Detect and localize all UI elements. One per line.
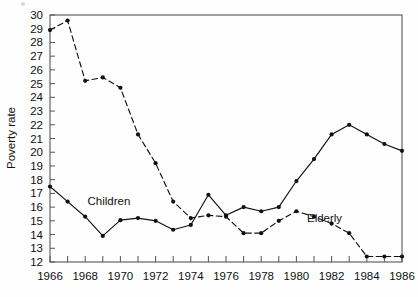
data-point — [224, 215, 228, 219]
y-tick-label: 15 — [30, 215, 43, 227]
x-tick-label: 1980 — [284, 270, 310, 282]
data-point — [259, 231, 263, 235]
y-tick-label: 14 — [30, 229, 43, 241]
data-point — [66, 18, 70, 22]
data-point — [259, 209, 263, 213]
x-tick-label: 1970 — [108, 270, 134, 282]
data-point — [171, 200, 175, 204]
x-tick-label: 1966 — [37, 270, 63, 282]
x-tick-label: 1982 — [319, 270, 345, 282]
data-point — [118, 218, 122, 222]
x-tick-label: 1972 — [143, 270, 169, 282]
data-point — [382, 142, 386, 146]
data-point — [206, 193, 210, 197]
series-elderly — [48, 18, 404, 258]
data-point — [154, 219, 158, 223]
y-tick-label: 28 — [30, 36, 43, 48]
y-tick-label: 27 — [30, 50, 43, 62]
data-point — [242, 205, 246, 209]
y-tick-label: 16 — [30, 201, 43, 213]
y-tick-label: 25 — [30, 78, 43, 90]
data-point — [101, 234, 105, 238]
data-point — [101, 75, 105, 79]
data-point — [277, 205, 281, 209]
data-point — [48, 184, 52, 188]
y-axis: 12131415161718192021222324252627282930 — [30, 9, 55, 268]
data-point — [347, 231, 351, 235]
data-point — [312, 157, 316, 161]
x-tick-label: 1976 — [213, 270, 239, 282]
data-point — [206, 213, 210, 217]
data-point — [365, 254, 369, 258]
y-tick-label: 30 — [30, 9, 43, 21]
data-point — [189, 223, 193, 227]
y-tick-label: 18 — [30, 174, 43, 186]
data-point — [400, 254, 404, 258]
series-line-children — [50, 125, 402, 236]
series-label-children: Children — [88, 195, 131, 207]
data-point — [347, 123, 351, 127]
data-point — [365, 132, 369, 136]
x-tick-label: 1984 — [354, 270, 380, 282]
y-tick-label: 21 — [30, 133, 43, 145]
series-label-elderly: Elderly — [307, 212, 342, 224]
x-tick-label: 1968 — [72, 270, 98, 282]
data-point — [382, 254, 386, 258]
data-point — [400, 149, 404, 153]
y-tick-label: 13 — [30, 242, 43, 254]
data-point — [83, 215, 87, 219]
poverty-rate-line-chart: 12131415161718192021222324252627282930 1… — [0, 0, 418, 297]
x-axis: 1966196819701972197419761978198019821984… — [37, 256, 415, 282]
data-point — [48, 28, 52, 32]
y-tick-label: 26 — [30, 64, 43, 76]
data-point — [294, 209, 298, 213]
y-tick-label: 24 — [30, 91, 43, 103]
data-point — [66, 200, 70, 204]
y-tick-label: 22 — [30, 119, 43, 131]
data-point — [242, 231, 246, 235]
data-point — [294, 179, 298, 183]
data-point — [118, 86, 122, 90]
data-point — [154, 161, 158, 165]
data-series-group — [48, 18, 404, 258]
x-tick-label: 1978 — [248, 270, 274, 282]
x-tick-label: 1986 — [389, 270, 415, 282]
data-point — [189, 216, 193, 220]
data-point — [171, 228, 175, 232]
y-tick-label: 17 — [30, 187, 43, 199]
y-tick-label: 23 — [30, 105, 43, 117]
data-point — [136, 132, 140, 136]
series-children — [48, 123, 404, 238]
data-point — [136, 216, 140, 220]
y-tick-label: 20 — [30, 146, 43, 158]
data-point — [277, 219, 281, 223]
plot-area-frame — [50, 15, 402, 262]
data-point — [330, 132, 334, 136]
series-line-elderly — [50, 20, 402, 256]
data-point — [83, 79, 87, 83]
y-tick-label: 29 — [30, 23, 43, 35]
y-axis-title: Poverty rate — [5, 107, 17, 169]
y-tick-label: 12 — [30, 256, 43, 268]
chart-page: 12131415161718192021222324252627282930 1… — [0, 0, 418, 297]
x-tick-label: 1974 — [178, 270, 204, 282]
y-tick-label: 19 — [30, 160, 43, 172]
